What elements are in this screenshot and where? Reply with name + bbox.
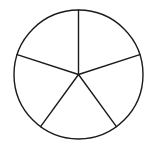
divided-circle-diagram: [0, 0, 151, 152]
